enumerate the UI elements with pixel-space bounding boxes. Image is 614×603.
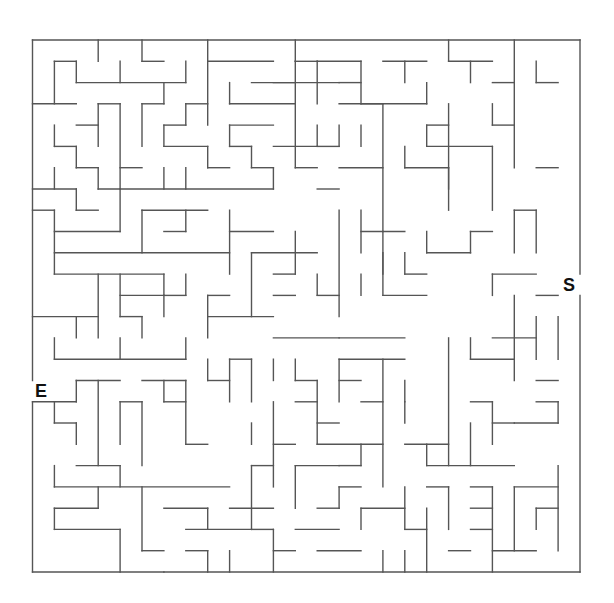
end-label: E bbox=[35, 382, 47, 400]
maze-grid bbox=[0, 0, 614, 603]
start-label: S bbox=[563, 276, 575, 294]
maze-walls bbox=[33, 40, 581, 572]
